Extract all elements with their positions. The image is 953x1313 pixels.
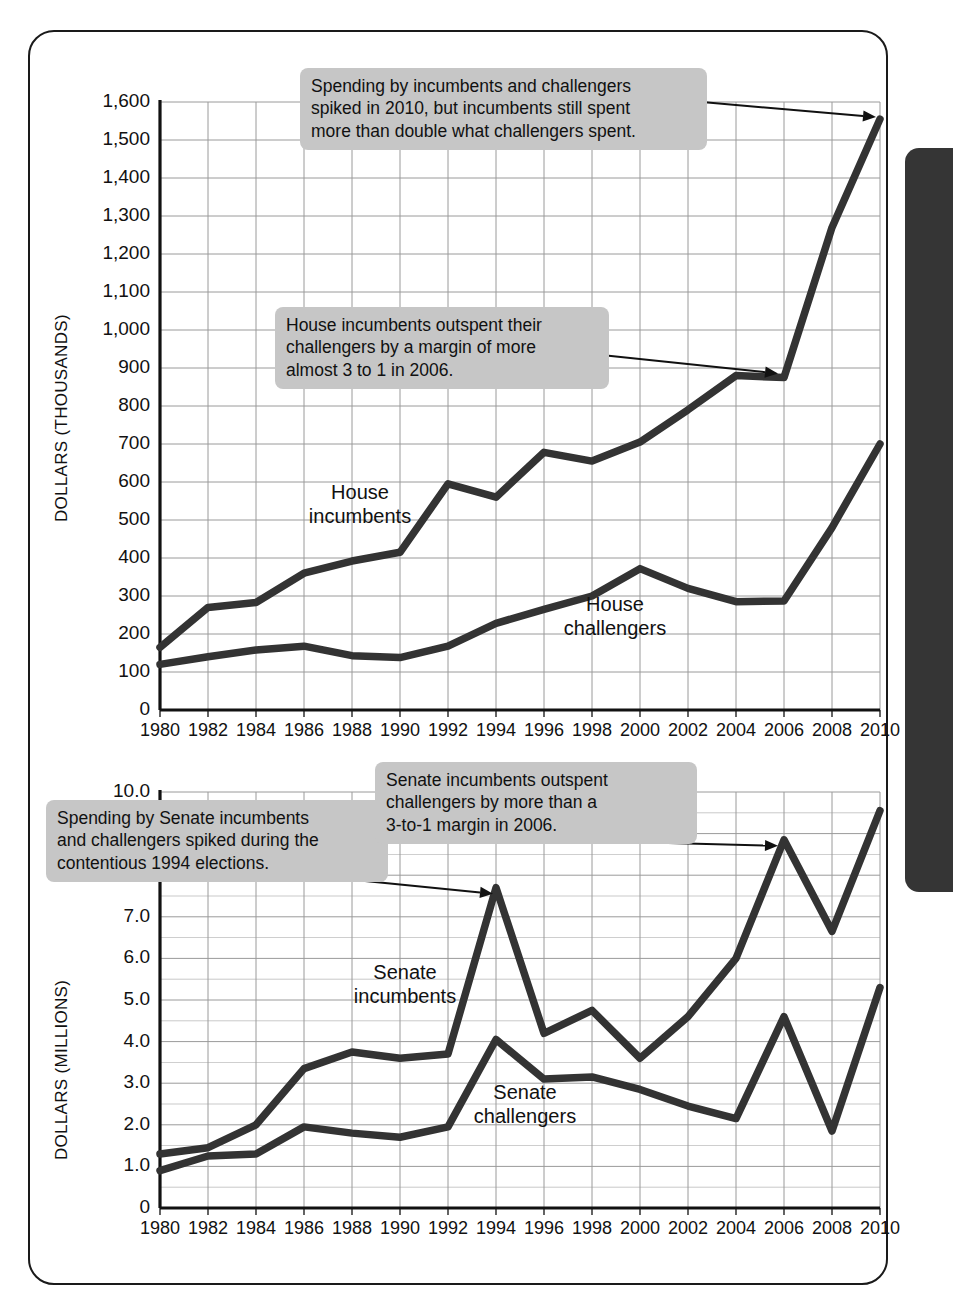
series-label-house-challengers: House challengers bbox=[530, 592, 700, 640]
y-tick-label: 0 bbox=[60, 698, 150, 720]
x-tick-label: 2010 bbox=[850, 1218, 910, 1239]
house-chart-plot bbox=[30, 62, 910, 752]
y-tick-label: 1,000 bbox=[60, 318, 150, 340]
y-tick-label: 400 bbox=[60, 546, 150, 568]
y-tick-label: 500 bbox=[60, 508, 150, 530]
y-tick-label: 600 bbox=[60, 470, 150, 492]
y-tick-label: 1.0 bbox=[60, 1154, 150, 1176]
y-tick-label: 700 bbox=[60, 432, 150, 454]
y-tick-label: 10.0 bbox=[60, 780, 150, 802]
y-tick-label: 2.0 bbox=[60, 1113, 150, 1135]
y-tick-label: 1,300 bbox=[60, 204, 150, 226]
y-tick-label: 4.0 bbox=[60, 1030, 150, 1052]
annotation-callout: Spending by incumbents and challengers s… bbox=[300, 68, 707, 150]
y-tick-label: 200 bbox=[60, 622, 150, 644]
y-tick-label: 300 bbox=[60, 584, 150, 606]
y-tick-label: 7.0 bbox=[60, 905, 150, 927]
y-tick-label: 5.0 bbox=[60, 988, 150, 1010]
y-tick-label: 1,600 bbox=[60, 90, 150, 112]
y-tick-label: 6.0 bbox=[60, 946, 150, 968]
x-tick-label: 2010 bbox=[850, 720, 910, 741]
series-label-senate-challengers: Senate challengers bbox=[445, 1080, 605, 1128]
y-tick-label: 3.0 bbox=[60, 1071, 150, 1093]
y-tick-label: 1,200 bbox=[60, 242, 150, 264]
series-label-senate-incumbents: Senate incumbents bbox=[325, 960, 485, 1008]
y-tick-label: 1,500 bbox=[60, 128, 150, 150]
y-tick-label: 0 bbox=[60, 1196, 150, 1218]
y-tick-label: 100 bbox=[60, 660, 150, 682]
house-spending-chart: DOLLARS (THOUSANDS) 01002003004005006007… bbox=[30, 62, 910, 752]
senate-spending-chart: DOLLARS (MILLIONS) 01.02.03.04.05.06.07.… bbox=[30, 760, 910, 1270]
y-tick-label: 900 bbox=[60, 356, 150, 378]
annotation-callout: House incumbents outspent their challeng… bbox=[275, 307, 609, 389]
annotation-callout: Senate incumbents outspent challengers b… bbox=[375, 762, 697, 844]
annotation-callout: Spending by Senate incumbents and challe… bbox=[46, 800, 388, 882]
y-tick-label: 800 bbox=[60, 394, 150, 416]
side-tab-marker bbox=[905, 148, 953, 892]
series-label-house-incumbents: House incumbents bbox=[280, 480, 440, 528]
y-tick-label: 1,400 bbox=[60, 166, 150, 188]
y-tick-label: 1,100 bbox=[60, 280, 150, 302]
